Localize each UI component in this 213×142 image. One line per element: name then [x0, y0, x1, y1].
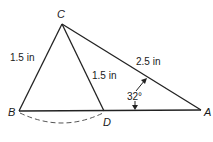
triangle-diagram: C B D A 1.5 in 1.5 in 2.5 in 32°: [0, 0, 213, 142]
point-label-a: A: [203, 106, 211, 118]
angle-label-a: 32°: [127, 91, 142, 102]
segment-ba: [19, 110, 201, 111]
segment-label-ca: 2.5 in: [136, 56, 160, 67]
dashed-arc-bd: [20, 113, 103, 123]
segment-label-cd: 1.5 in: [92, 70, 116, 81]
point-label-c: C: [57, 8, 65, 20]
point-label-d: D: [103, 116, 111, 128]
arrowhead-down-icon: [132, 105, 138, 110]
point-label-b: B: [8, 106, 15, 118]
segment-cb: [19, 24, 62, 111]
segment-label-cb: 1.5 in: [10, 52, 34, 63]
